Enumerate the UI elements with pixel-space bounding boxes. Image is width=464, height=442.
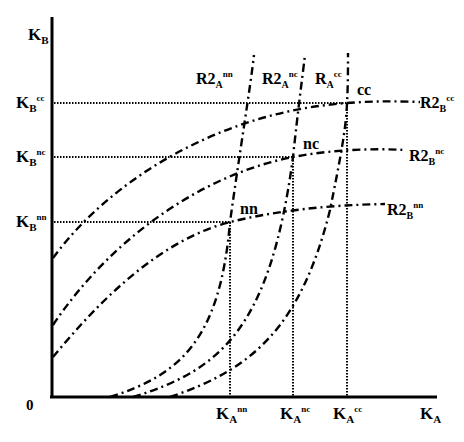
point-label-nn: nn xyxy=(240,200,258,217)
point-label-nc: nc xyxy=(303,135,319,152)
tick-ka-nn: KAnn xyxy=(216,404,247,425)
tick-ka-cc: KAcc xyxy=(333,404,362,425)
tick-kb-nc: KBnc xyxy=(16,147,46,168)
label-ra-cc: RAcc xyxy=(315,69,342,90)
curve-r2a-nc xyxy=(133,55,305,397)
curve-r2a-nn xyxy=(110,55,254,397)
label-r2b-cc: R2Bcc xyxy=(420,93,454,114)
tick-kb-cc: KBcc xyxy=(16,93,45,114)
point-label-cc: cc xyxy=(357,81,371,98)
tick-kb-nn: KBnn xyxy=(16,212,47,233)
curve-ra-cc xyxy=(170,53,348,397)
reaction-function-diagram: KB KA 0 KBcc KBnc KBnn KAnn KAnc KAcc R2… xyxy=(0,0,464,442)
x-axis-label: KA xyxy=(420,404,441,425)
label-r2a-nc: R2Anc xyxy=(262,69,298,90)
label-r2b-nc: R2Bnc xyxy=(409,146,444,167)
y-axis-label: KB xyxy=(28,25,49,46)
label-r2a-nn: R2Ann xyxy=(196,69,233,90)
label-r2b-nn: R2Bnn xyxy=(387,200,423,221)
origin-label: 0 xyxy=(26,397,34,413)
curve-r2b-nn xyxy=(53,204,385,357)
tick-ka-nc: KAnc xyxy=(280,404,310,425)
